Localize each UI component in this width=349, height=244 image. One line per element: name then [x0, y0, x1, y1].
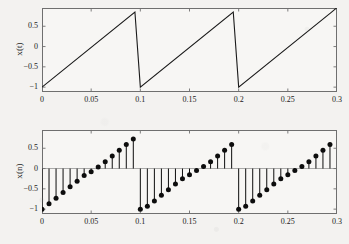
x-tick-label-discrete: 0.05	[77, 217, 105, 226]
continuous-sawtooth-plot	[42, 8, 337, 92]
x-tick-label-continuous: 0.1	[126, 95, 154, 104]
x-tick-label-continuous: 0.15	[176, 95, 204, 104]
y-tick-label-discrete: 0	[10, 164, 38, 173]
x-tick-label-discrete: 0.1	[126, 217, 154, 226]
x-tick-label-continuous: 0.05	[77, 95, 105, 104]
x-tick-label-continuous: 0.25	[274, 95, 302, 104]
y-tick-label-discrete: −0.5	[10, 184, 38, 193]
x-tick-label-discrete: 0	[28, 217, 56, 226]
x-tick-label-discrete: 0.2	[225, 217, 253, 226]
y-tick-label-continuous: −0.5	[10, 62, 38, 71]
x-tick-label-discrete: 0.3	[323, 217, 349, 226]
x-tick-label-discrete: 0.25	[274, 217, 302, 226]
x-tick-label-continuous: 0	[28, 95, 56, 104]
x-tick-label-continuous: 0.3	[323, 95, 349, 104]
axes-continuous	[42, 8, 337, 92]
discrete-sawtooth-stem-plot	[42, 130, 337, 214]
x-tick-label-continuous: 0.2	[225, 95, 253, 104]
y-tick-label-continuous: −1	[10, 82, 38, 91]
y-tick-label-continuous: 0.5	[10, 21, 38, 30]
y-tick-label-discrete: −1	[10, 204, 38, 213]
y-tick-label-discrete: 0.5	[10, 143, 38, 152]
axes-discrete	[42, 130, 337, 214]
y-tick-label-continuous: 0	[10, 42, 38, 51]
figure-container: x(t) x(n) 00.050.10.150.20.250.30.50−0.5…	[0, 0, 349, 244]
x-tick-label-discrete: 0.15	[176, 217, 204, 226]
